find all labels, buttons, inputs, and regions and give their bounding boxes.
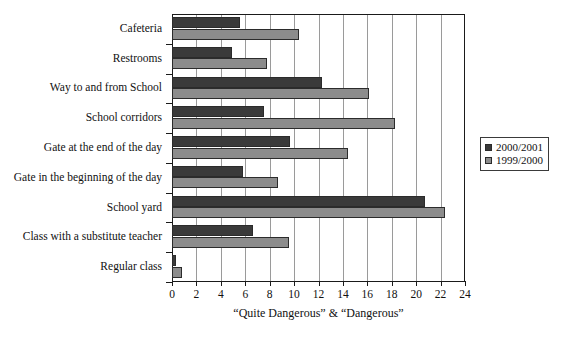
- x-axis-title: “Quite Dangerous” & “Dangerous”: [172, 306, 465, 321]
- bar-series-2000-2001: [172, 225, 253, 236]
- category-label: Way to and from School: [0, 81, 162, 93]
- bar-series-1999-2000: [172, 237, 289, 248]
- x-axis-tick: [196, 282, 197, 286]
- bar-series-2000-2001: [172, 17, 240, 28]
- legend-item: 1999/2000: [485, 154, 543, 167]
- bars-layer: [172, 14, 465, 282]
- y-axis-tick: [166, 252, 172, 253]
- x-axis-tick-label: 20: [404, 288, 428, 300]
- x-axis-tick-label: 12: [307, 288, 331, 300]
- y-axis-tick: [166, 222, 172, 223]
- x-axis-tick: [294, 282, 295, 286]
- x-axis-tick-label: 24: [453, 288, 477, 300]
- category-label: Gate at the end of the day: [0, 141, 162, 153]
- x-axis-tick-label: 16: [355, 288, 379, 300]
- bar-group: [172, 222, 465, 252]
- x-axis-tick-label: 14: [331, 288, 355, 300]
- x-axis-tick: [245, 282, 246, 286]
- y-axis-tick: [166, 133, 172, 134]
- legend-swatch-icon: [485, 144, 492, 151]
- bar-series-2000-2001: [172, 136, 290, 147]
- legend-swatch-icon: [485, 157, 492, 164]
- legend-label: 1999/2000: [496, 154, 543, 167]
- category-label: Regular class: [0, 260, 162, 272]
- bar-series-2000-2001: [172, 77, 322, 88]
- x-axis-tick: [172, 282, 173, 286]
- category-label: Cafeteria: [0, 22, 162, 34]
- x-axis-tick-label: 8: [258, 288, 282, 300]
- bar-series-2000-2001: [172, 166, 243, 177]
- bar-group: [172, 44, 465, 74]
- bar-series-1999-2000: [172, 177, 278, 188]
- bar-series-2000-2001: [172, 47, 232, 58]
- bar-group: [172, 74, 465, 104]
- chart-legend: 2000/20011999/2000: [480, 137, 549, 171]
- x-axis-tick: [465, 282, 466, 286]
- x-axis-tick-label: 0: [160, 288, 184, 300]
- x-axis-tick: [392, 282, 393, 286]
- legend-label: 2000/2001: [496, 141, 543, 154]
- legend-item: 2000/2001: [485, 141, 543, 154]
- x-axis-tick: [221, 282, 222, 286]
- bar-group: [172, 193, 465, 223]
- bar-series-2000-2001: [172, 106, 264, 117]
- bar-group: [172, 14, 465, 44]
- bar-series-1999-2000: [172, 58, 267, 69]
- bar-series-1999-2000: [172, 148, 348, 159]
- x-axis-tick: [270, 282, 271, 286]
- y-axis-tick: [166, 74, 172, 75]
- bar-series-2000-2001: [172, 255, 176, 266]
- x-axis-tick-label: 10: [282, 288, 306, 300]
- bar-series-1999-2000: [172, 88, 369, 99]
- bar-series-1999-2000: [172, 29, 299, 40]
- bar-group: [172, 133, 465, 163]
- x-axis-tick-label: 22: [429, 288, 453, 300]
- y-axis-tick: [166, 163, 172, 164]
- category-label: Gate in the beginning of the day: [0, 171, 162, 183]
- bar-group: [172, 163, 465, 193]
- category-label: School corridors: [0, 111, 162, 123]
- y-axis-tick: [166, 193, 172, 194]
- bar-series-1999-2000: [172, 118, 395, 129]
- category-label: Restrooms: [0, 52, 162, 64]
- bar-chart: CafeteriaRestroomsWay to and from School…: [0, 0, 561, 338]
- category-label: School yard: [0, 201, 162, 213]
- category-label: Class with a substitute teacher: [0, 230, 162, 242]
- y-axis-tick: [166, 282, 172, 283]
- y-axis-tick: [166, 44, 172, 45]
- bar-series-1999-2000: [172, 207, 445, 218]
- x-axis-tick: [343, 282, 344, 286]
- bar-group: [172, 252, 465, 282]
- x-axis-tick: [367, 282, 368, 286]
- x-axis-tick-label: 4: [209, 288, 233, 300]
- x-axis-tick: [319, 282, 320, 286]
- x-axis-tick: [416, 282, 417, 286]
- bar-group: [172, 103, 465, 133]
- x-axis-tick: [441, 282, 442, 286]
- x-axis-tick-label: 6: [233, 288, 257, 300]
- x-axis-tick-label: 18: [380, 288, 404, 300]
- y-axis-tick: [166, 103, 172, 104]
- category-axis-labels: CafeteriaRestroomsWay to and from School…: [0, 14, 168, 282]
- bar-series-1999-2000: [172, 267, 182, 278]
- bar-series-2000-2001: [172, 196, 425, 207]
- x-axis-tick-label: 2: [184, 288, 208, 300]
